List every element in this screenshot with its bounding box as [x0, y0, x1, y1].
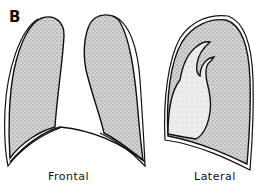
right-lung [84, 15, 143, 160]
left-lung [9, 17, 64, 158]
panel-label: B [9, 8, 20, 26]
lateral-caption: Lateral [194, 170, 236, 183]
frontal-caption: Frontal [48, 170, 89, 183]
frontal-view [5, 15, 145, 166]
lung-diagram [0, 0, 255, 185]
lateral-view [165, 16, 254, 170]
